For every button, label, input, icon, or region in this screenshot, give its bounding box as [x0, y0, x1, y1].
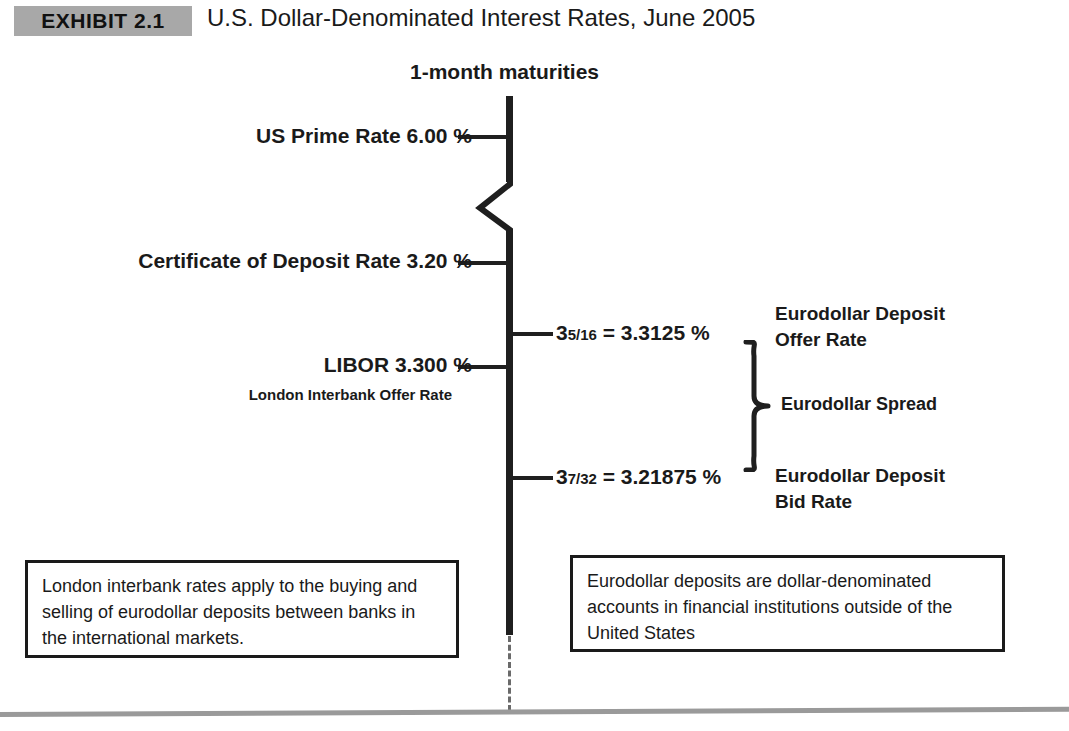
label-eurodollar-deposit-bid-rate: Eurodollar Deposit Bid Rate [775, 463, 945, 515]
note-eurodollar-deposits: Eurodollar deposits are dollar-denominat… [570, 555, 1005, 652]
value-offer-decimal: = 3.3125 % [603, 321, 710, 344]
axis-break-symbol [470, 172, 530, 242]
tick-offer-rate [509, 332, 553, 336]
value-bid-decimal: = 3.21875 % [603, 465, 722, 488]
axis-caption: 1-month maturities [410, 60, 599, 84]
value-bid-whole: 3 [556, 465, 568, 488]
spread-brace-icon [738, 340, 778, 472]
label-eurodollar-deposit-offer-rate: Eurodollar Deposit Offer Rate [775, 301, 945, 353]
footer-rule [0, 707, 1069, 717]
value-offer-whole: 3 [556, 321, 568, 344]
exhibit-page: EXHIBIT 2.1 U.S. Dollar-Denominated Inte… [0, 0, 1069, 731]
label-offer-line2: Offer Rate [775, 327, 945, 353]
value-bid-fraction: 7/32 [568, 470, 597, 487]
label-eurodollar-spread: Eurodollar Spread [781, 391, 937, 417]
axis-line-dashed-extension [508, 636, 511, 711]
label-libor-expansion: London Interbank Offer Rate [249, 386, 452, 403]
value-eurodollar-offer-rate: 35/16 = 3.3125 % [556, 321, 710, 345]
label-libor: LIBOR 3.300 % [324, 353, 472, 377]
axis-line-upper [506, 96, 513, 182]
label-offer-line1: Eurodollar Deposit [775, 301, 945, 327]
exhibit-title: U.S. Dollar-Denominated Interest Rates, … [207, 4, 755, 32]
label-bid-line1: Eurodollar Deposit [775, 463, 945, 489]
value-offer-fraction: 5/16 [568, 326, 597, 343]
exhibit-tag-label: EXHIBIT 2.1 [14, 6, 192, 36]
axis-line-lower [506, 230, 513, 635]
tick-bid-rate [509, 476, 553, 480]
label-us-prime-rate: US Prime Rate 6.00 % [256, 124, 472, 148]
label-certificate-of-deposit-rate: Certificate of Deposit Rate 3.20 % [138, 249, 472, 273]
note-london-interbank-rates: London interbank rates apply to the buyi… [25, 560, 459, 658]
label-bid-line2: Bid Rate [775, 489, 945, 515]
value-eurodollar-bid-rate: 37/32 = 3.21875 % [556, 465, 721, 489]
